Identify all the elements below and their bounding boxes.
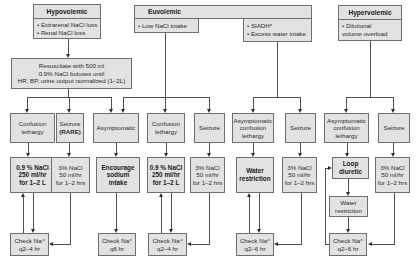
connector: [28, 143, 29, 153]
arrow-down-icon: [26, 153, 30, 157]
connector: [277, 42, 278, 97]
hypervolemic-causes: • Dilutional volume overload: [338, 19, 402, 41]
connector: [253, 97, 254, 109]
connector: [111, 97, 112, 109]
euvo-seizure: Seizure: [194, 113, 225, 143]
connector: [69, 143, 70, 153]
hyper-asymptomatic-confusion: Asymptomatic confusion lethargy: [324, 113, 369, 143]
connector: [370, 41, 371, 97]
connector: [301, 193, 302, 244]
arrow-down-icon: [346, 229, 350, 233]
hypovolemic-header: Hypovolemic: [33, 4, 101, 19]
euvo-saline-treatment: 0.9 % NaCl 250 ml/hr for 1–2 L: [147, 157, 185, 193]
euvo-confusion-lethargy: Confusion lethargy: [147, 113, 185, 143]
connector: [209, 193, 210, 244]
arrow-down-icon: [344, 109, 348, 113]
arrow-down-icon: [207, 153, 211, 157]
arrow-down-icon: [391, 153, 395, 157]
arrow-down-icon: [31, 229, 35, 233]
check-sodium-1: Check Na⁺ q2–4 hr: [10, 233, 49, 256]
connector: [123, 97, 209, 98]
arrow-up-icon: [159, 193, 163, 197]
hyper-seizure: Seizure: [378, 113, 410, 143]
siadh-seizure: Seizure: [285, 113, 316, 143]
hypovolemic-causes: • Extrarenal NaCl loss • Renal NaCl loss: [33, 18, 101, 39]
euvo-hypertonic-treatment: 3% NaCl 50 ml/hr for 1–2 hrs: [190, 157, 225, 193]
connector: [372, 244, 395, 245]
connector: [209, 97, 210, 109]
rare-label: (RARE): [59, 128, 81, 136]
connector: [393, 143, 394, 153]
arrow-left-icon: [187, 242, 191, 246]
siadh-hypertonic-treatment: 3% NaCl 50 ml/hr for 1–2 hrs: [282, 157, 317, 193]
connector: [347, 143, 348, 153]
hyper-hypertonic-treatment: 3% NaCl 50 ml/hr for 1–2 hrs: [375, 157, 410, 193]
arrow-down-icon: [109, 109, 113, 113]
connector: [278, 244, 302, 245]
connector: [249, 197, 250, 233]
hyponatremia-flowchart: Hypovolemic • Extrarenal NaCl loss • Ren…: [0, 0, 418, 263]
hypo-saline-treatment: 0.9 % NaCl 250 ml/hr for 1–2 L: [10, 157, 55, 193]
connector: [70, 193, 71, 244]
euvolemic-header: Euvolemic: [134, 5, 312, 19]
euvolemic-causes-low-nacl: • Low NaCl intake: [134, 18, 199, 33]
arrow-down-icon: [207, 109, 211, 113]
connector: [191, 244, 210, 245]
check-sodium-2: Check Na⁺ q6 hr: [98, 233, 136, 256]
connector: [161, 197, 162, 233]
hypo-hypertonic-treatment: 3% NaCl 50 ml/hr for 1–2 hrs: [51, 157, 90, 193]
loop-diuretic-treatment: Loop diuretic: [332, 157, 369, 179]
arrow-down-icon: [298, 153, 302, 157]
arrow-down-icon: [67, 153, 71, 157]
arrow-down-icon: [121, 109, 125, 113]
arrow-down-icon: [114, 153, 118, 157]
arrow-down-icon: [169, 229, 173, 233]
resuscitate-box: Resuscitate with 500 ml 0.9% NaCl boluse…: [11, 58, 132, 89]
connector: [325, 244, 329, 245]
arrow-right-icon: [328, 166, 332, 170]
arrow-down-icon: [114, 229, 118, 233]
connector: [171, 193, 172, 229]
connector: [209, 143, 210, 153]
connector: [68, 89, 69, 97]
arrow-down-icon: [257, 229, 261, 233]
hypervolemic-header: Hypervolemic: [338, 5, 402, 20]
water-restriction-treatment: Water restriction: [236, 157, 274, 193]
hypo-seizure-rare: Seizure (RARE): [56, 113, 84, 143]
arrow-down-icon: [345, 153, 349, 157]
connector: [116, 143, 117, 153]
arrow-left-icon: [274, 242, 278, 246]
connector: [393, 97, 394, 109]
connector: [33, 193, 34, 229]
connector: [166, 143, 167, 153]
arrow-down-icon: [298, 109, 302, 113]
arrow-down-icon: [67, 109, 71, 113]
arrow-down-icon: [25, 109, 29, 113]
connector: [68, 39, 69, 54]
arrow-down-icon: [164, 153, 168, 157]
arrow-down-icon: [66, 54, 70, 58]
arrow-down-icon: [391, 109, 395, 113]
arrow-down-icon: [251, 109, 255, 113]
connector: [394, 193, 395, 244]
arrow-down-icon: [163, 109, 167, 113]
hypo-confusion-lethargy: Confusion lethargy: [10, 113, 55, 143]
connector: [253, 97, 301, 98]
check-sodium-5: Check Na⁺ q2–6 hr: [329, 233, 367, 256]
connector: [253, 143, 254, 153]
connector: [23, 197, 24, 233]
connector: [69, 97, 70, 109]
connector: [348, 179, 349, 192]
hyper-water-restriction: Water restriction: [329, 196, 368, 217]
connector: [348, 217, 349, 229]
euvolemic-causes-siadh: • SIADH* • Excess water intake: [243, 18, 312, 42]
siadh-asymptomatic-confusion: Asymptomatic confusion lethargy: [232, 113, 274, 143]
arrow-left-icon: [49, 242, 53, 246]
connector: [300, 97, 301, 109]
connector: [300, 143, 301, 153]
connector: [346, 97, 394, 98]
arrow-left-icon: [368, 242, 372, 246]
connector: [123, 97, 124, 109]
arrow-down-icon: [251, 153, 255, 157]
asymptomatic: Asymptomatic: [93, 113, 139, 143]
